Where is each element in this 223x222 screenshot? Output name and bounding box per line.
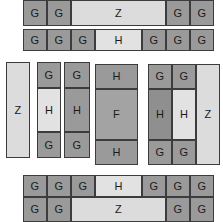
group-bottom-row-2: GGZGG: [0, 0, 223, 222]
block-label: G: [55, 204, 64, 215]
block-label: G: [174, 204, 183, 215]
block-z: Z: [71, 197, 166, 222]
block-g: G: [47, 197, 71, 222]
block-g: G: [190, 197, 214, 222]
block-label: G: [198, 204, 207, 215]
block-label: Z: [115, 204, 122, 215]
block-label: G: [31, 204, 40, 215]
diagram-canvas: GGZGGGGGHGGGZGHGGHGHFHGGHHGGZGGGHGGGGGZG…: [0, 0, 223, 222]
block-g: G: [23, 197, 47, 222]
block-g: G: [166, 197, 190, 222]
